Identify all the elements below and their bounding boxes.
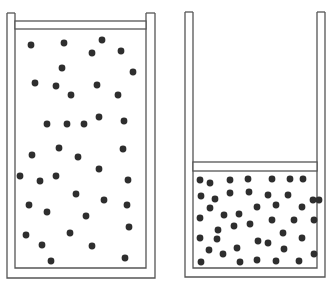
gas-particle [247, 221, 254, 228]
gas-particle [245, 176, 252, 183]
gas-particle [246, 189, 253, 196]
gas-particle [130, 69, 137, 76]
gas-compression-diagram [0, 0, 334, 285]
left-container [7, 13, 155, 278]
gas-particle [96, 114, 103, 121]
gas-particle [227, 177, 234, 184]
gas-particle [37, 178, 44, 185]
gas-particle [237, 259, 244, 266]
gas-particle [197, 235, 204, 242]
gas-particle [75, 154, 82, 161]
gas-particle [310, 197, 317, 204]
gas-particle [281, 246, 288, 253]
gas-particle [287, 176, 294, 183]
gas-particle [197, 215, 204, 222]
gas-particles [17, 37, 137, 265]
gas-particle [23, 232, 30, 239]
gas-particle [198, 259, 205, 266]
gas-particle [236, 211, 243, 218]
gas-particle [29, 152, 36, 159]
piston [193, 162, 317, 171]
gas-particle [53, 173, 60, 180]
container-inner-wall [193, 12, 317, 268]
gas-particle [26, 202, 33, 209]
gas-particle [215, 227, 222, 234]
gas-particle [273, 202, 280, 209]
gas-particle [269, 176, 276, 183]
gas-particles [197, 176, 323, 266]
gas-particle [120, 146, 127, 153]
gas-particle [125, 177, 132, 184]
gas-particle [220, 251, 227, 258]
gas-particle [81, 121, 88, 128]
gas-particle [231, 223, 238, 230]
gas-particle [89, 50, 96, 57]
gas-particle [115, 92, 122, 99]
gas-particle [296, 258, 303, 265]
gas-particle [44, 209, 51, 216]
gas-particle [32, 80, 39, 87]
gas-particle [265, 240, 272, 247]
gas-particle [269, 217, 276, 224]
gas-particle [44, 121, 51, 128]
gas-particle [234, 245, 241, 252]
gas-particle [255, 238, 262, 245]
gas-particle [121, 118, 128, 125]
container-inner-wall [15, 13, 146, 268]
piston [15, 21, 146, 29]
gas-particle [299, 235, 306, 242]
gas-particle [207, 180, 214, 187]
gas-particle [68, 92, 75, 99]
gas-particle [28, 42, 35, 49]
gas-particle [206, 247, 213, 254]
gas-particle [273, 258, 280, 265]
gas-particle [280, 230, 287, 237]
gas-particle [83, 213, 90, 220]
container-outer-wall [7, 13, 155, 278]
gas-particle [300, 176, 307, 183]
gas-particle [53, 83, 60, 90]
gas-particle [39, 242, 46, 249]
gas-particle [17, 173, 24, 180]
gas-particle [101, 197, 108, 204]
gas-particle [291, 217, 298, 224]
gas-particle [59, 65, 66, 72]
gas-particle [118, 48, 125, 55]
gas-particle [197, 177, 204, 184]
gas-particle [316, 197, 323, 204]
gas-particle [67, 230, 74, 237]
gas-particle [124, 202, 131, 209]
gas-particle [56, 145, 63, 152]
gas-particle [64, 121, 71, 128]
gas-particle [61, 40, 68, 47]
gas-particle [214, 236, 221, 243]
gas-particle [221, 212, 228, 219]
right-container [185, 12, 325, 277]
gas-particle [48, 258, 55, 265]
gas-particle [89, 243, 96, 250]
gas-particle [99, 37, 106, 44]
gas-particle [285, 192, 292, 199]
gas-particle [299, 204, 306, 211]
gas-particle [96, 166, 103, 173]
gas-particle [227, 190, 234, 197]
gas-particle [73, 191, 80, 198]
gas-particle [94, 82, 101, 89]
gas-particle [198, 193, 205, 200]
gas-particle [122, 255, 129, 262]
gas-particle [207, 205, 214, 212]
gas-particle [254, 204, 261, 211]
gas-particle [265, 192, 272, 199]
diagram-canvas [0, 0, 334, 285]
gas-particle [311, 251, 318, 258]
gas-particle [212, 196, 219, 203]
gas-particle [254, 257, 261, 264]
gas-particle [126, 224, 133, 231]
gas-particle [311, 217, 318, 224]
